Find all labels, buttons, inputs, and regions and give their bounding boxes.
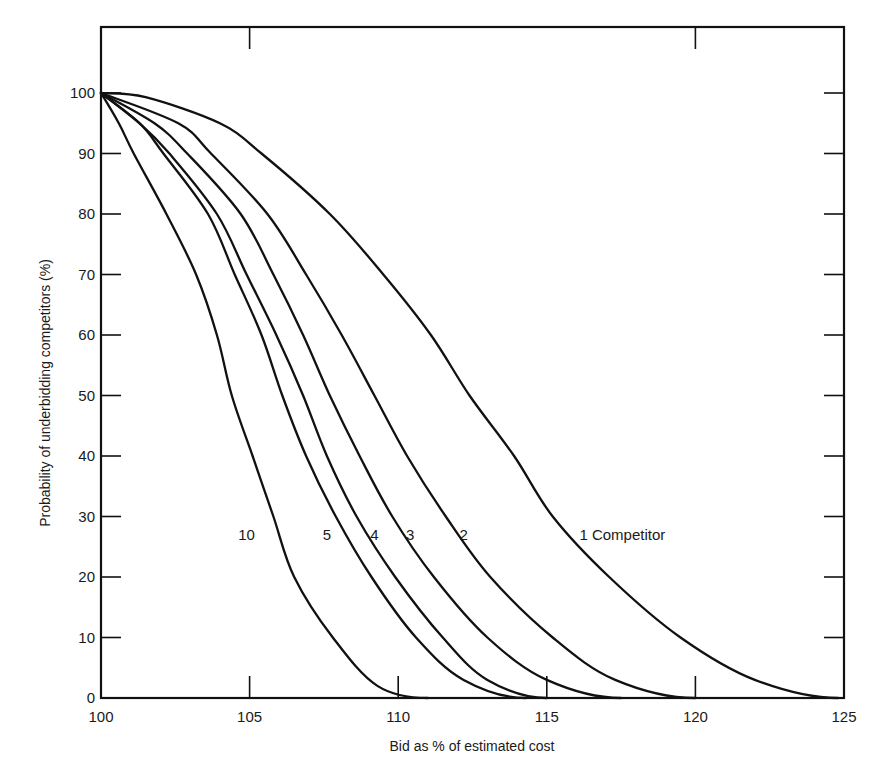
y-tick-label: 10 bbox=[78, 629, 95, 646]
y-tick-label: 40 bbox=[78, 447, 95, 464]
y-tick-label: 0 bbox=[87, 689, 95, 706]
x-tick-label: 100 bbox=[88, 708, 113, 725]
x-tick-label: 125 bbox=[831, 708, 856, 725]
y-tick-label: 30 bbox=[78, 508, 95, 525]
curve-label: 5 bbox=[323, 526, 331, 543]
curve-4-competitors bbox=[101, 93, 547, 698]
x-tick-label: 115 bbox=[535, 708, 559, 725]
y-tick-label: 50 bbox=[78, 387, 95, 404]
x-axis-title: Bid as % of estimated cost bbox=[390, 738, 555, 754]
curve-5-competitors bbox=[101, 93, 526, 698]
x-tick-label: 105 bbox=[237, 708, 262, 725]
y-tick-label: 100 bbox=[70, 84, 95, 101]
curve-2-competitors bbox=[101, 93, 695, 698]
curve-label: 2 bbox=[459, 526, 467, 543]
curve-1-competitors bbox=[101, 93, 838, 698]
y-tick-label: 80 bbox=[78, 205, 95, 222]
curve-label: 1 Competitor bbox=[579, 526, 665, 543]
curve-10-competitors bbox=[101, 93, 428, 698]
chart-canvas: 100105110115120125 010203040506070809010… bbox=[0, 0, 889, 778]
y-tick-label: 90 bbox=[78, 145, 95, 162]
curve-labels: 1 Competitor234510 bbox=[238, 526, 665, 543]
x-tick-label: 110 bbox=[386, 708, 410, 725]
x-tick-label: 120 bbox=[683, 708, 708, 725]
y-axis-title: Probability of underbidding competitors … bbox=[37, 259, 53, 527]
y-axis-ticks: 0102030405060708090100 bbox=[70, 84, 844, 706]
curve-label: 10 bbox=[238, 526, 255, 543]
x-axis-ticks: 100105110115120125 bbox=[88, 27, 856, 725]
y-tick-label: 60 bbox=[78, 326, 95, 343]
plot-frame bbox=[101, 27, 844, 698]
curve-group bbox=[101, 93, 838, 698]
curve-label: 3 bbox=[406, 526, 414, 543]
y-tick-label: 20 bbox=[78, 568, 95, 585]
curve-3-competitors bbox=[101, 93, 621, 698]
curve-label: 4 bbox=[370, 526, 378, 543]
y-tick-label: 70 bbox=[78, 266, 95, 283]
